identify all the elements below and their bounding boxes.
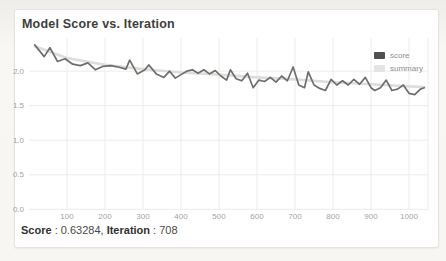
- y-tick-label: 0.5: [13, 170, 25, 179]
- x-tick-label: 400: [174, 212, 188, 221]
- x-tick-label: 500: [212, 212, 226, 221]
- readout-sep1: :: [52, 224, 61, 236]
- chart-legend: score summary: [374, 51, 423, 73]
- legend-item-summary[interactable]: summary: [374, 64, 423, 73]
- readout-sep2: :: [150, 224, 159, 236]
- x-tick-label: 700: [288, 212, 302, 221]
- page-background: 0.00.51.01.52.01002003004005006007008009…: [0, 0, 446, 261]
- x-tick-label: 100: [60, 212, 74, 221]
- score-line[interactable]: [35, 45, 425, 95]
- x-tick-label: 300: [136, 212, 150, 221]
- summary-legend-swatch: [374, 65, 385, 72]
- readout-score-label: Score: [21, 224, 52, 236]
- x-tick-label: 800: [326, 212, 340, 221]
- readout-iteration-value: 708: [159, 224, 177, 236]
- readout-iteration-label: Iteration: [107, 224, 150, 236]
- readout-score-value: 0.63284: [61, 224, 101, 236]
- x-tick-label: 600: [250, 212, 264, 221]
- x-tick-label: 1000: [400, 212, 418, 221]
- score-legend-swatch: [374, 52, 385, 59]
- score-legend-label: score: [390, 51, 410, 60]
- x-tick-label: 900: [364, 212, 378, 221]
- y-tick-label: 2.0: [13, 67, 25, 76]
- line-chart[interactable]: 0.00.51.01.52.01002003004005006007008009…: [0, 0, 446, 261]
- y-tick-label: 1.5: [13, 101, 25, 110]
- summary-legend-label: summary: [390, 64, 423, 73]
- readout-footer: Score : 0.63284, Iteration : 708: [21, 224, 178, 236]
- y-tick-label: 1.0: [13, 136, 25, 145]
- legend-item-score[interactable]: score: [374, 51, 423, 60]
- chart-title: Model Score vs. Iteration: [22, 17, 175, 31]
- x-tick-label: 200: [98, 212, 112, 221]
- y-tick-label: 0.0: [13, 205, 25, 214]
